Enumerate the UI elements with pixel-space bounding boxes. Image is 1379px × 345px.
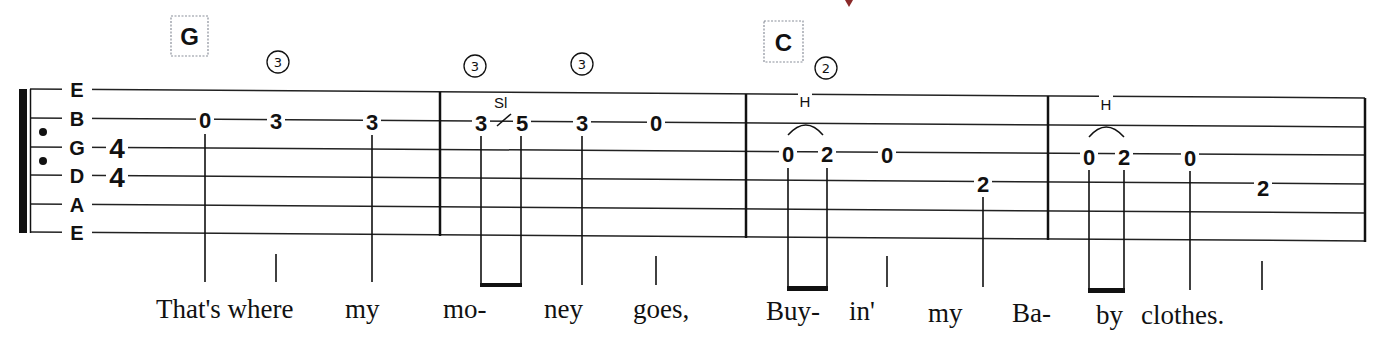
svg-text:4: 4 [109, 162, 125, 193]
lyric-syllable: by [1096, 300, 1124, 330]
string-label-e-high: E [70, 79, 83, 101]
fret-number: 2 [821, 142, 833, 167]
lyric-syllable: Buy- [766, 296, 820, 326]
hammer-on-arc [1089, 127, 1124, 137]
hammer-on-label: H [800, 93, 811, 110]
string-label-d: D [70, 165, 84, 187]
svg-text:4: 4 [109, 133, 125, 164]
string-label-g: G [69, 137, 85, 159]
string-indicator-3: 3 [464, 55, 486, 77]
lyric-syllable: my [928, 298, 963, 328]
string-indicator-2: 2 [815, 57, 837, 79]
repeat-dot [39, 128, 47, 136]
fret-number: 0 [650, 111, 662, 136]
fret-number: 0 [1184, 146, 1196, 171]
hammer-on-label: H [1101, 96, 1112, 113]
svg-text:2: 2 [822, 61, 830, 76]
fret-number: 2 [1118, 145, 1130, 170]
fret-number: 3 [475, 111, 487, 136]
repeat-thick-bar [19, 89, 27, 233]
string-lines [30, 89, 1365, 241]
repeat-dot [39, 157, 47, 165]
string-indicators: 3 3 3 2 [267, 51, 837, 79]
fret-number: 3 [576, 111, 588, 136]
lyric-syllable: goes, [633, 294, 689, 324]
svg-text:3: 3 [578, 57, 586, 72]
eighth-beam [480, 283, 522, 287]
lyric-syllable: mo- [443, 294, 487, 324]
string-label-b: B [70, 108, 84, 130]
slide-label: Sl [494, 94, 507, 111]
fret-numbers: 0 3 3 3 5 3 0 0 2 0 2 0 2 0 2 [196, 108, 1272, 201]
fret-number: 2 [1257, 176, 1269, 201]
string-label-e-low: E [70, 222, 83, 244]
string-labels: E B G D A E [62, 78, 92, 244]
lyric-syllable: Ba- [1012, 298, 1051, 328]
lyric-syllable: ney [544, 294, 583, 324]
fret-number: 2 [977, 172, 989, 197]
title-fragment [845, 0, 853, 7]
string-indicator-3: 3 [571, 53, 593, 75]
lyric-syllable: in' [849, 296, 875, 326]
lyric-syllable: my [345, 294, 380, 324]
eighth-beam [787, 286, 828, 291]
rhythm-stems [205, 134, 1262, 291]
chord-g: G [171, 16, 208, 56]
fret-number: 3 [270, 109, 282, 134]
lyric-syllable: That's where [156, 294, 294, 324]
tab-staff: E B G D A E 4 4 G C 3 3 [0, 0, 1379, 345]
fret-number: 0 [1083, 145, 1095, 170]
slide-mark [497, 114, 511, 126]
string-label-a: A [70, 194, 84, 216]
fret-number: 0 [782, 142, 794, 167]
svg-text:3: 3 [471, 59, 479, 74]
chord-c: C [764, 21, 803, 62]
fret-number: 0 [881, 143, 893, 168]
time-signature: 4 4 [106, 133, 128, 193]
svg-text:C: C [775, 29, 792, 56]
fret-number: 3 [366, 110, 378, 135]
fret-number: 5 [516, 111, 528, 136]
svg-text:G: G [180, 23, 199, 50]
string-indicator-3: 3 [267, 51, 289, 73]
lyrics: That's where my mo- ney goes, Buy- in' m… [156, 294, 1224, 330]
eighth-beam [1088, 288, 1125, 293]
hammer-on-arc [788, 125, 823, 135]
svg-text:3: 3 [274, 55, 282, 70]
lyric-syllable: clothes. [1141, 300, 1224, 330]
fret-number: 0 [199, 108, 211, 133]
